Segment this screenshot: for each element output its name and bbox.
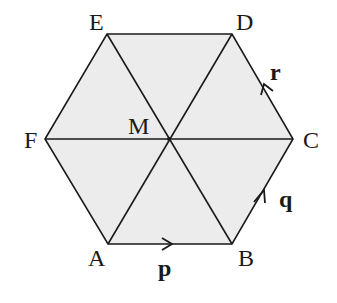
vertex-label-E: E — [89, 9, 104, 35]
vertex-label-D: D — [236, 9, 253, 35]
vertex-label-B: B — [238, 245, 254, 271]
vertex-label-F: F — [24, 127, 37, 153]
hexagon-diagram: E D F C M A B p q r — [0, 0, 337, 303]
vertex-label-C: C — [303, 127, 319, 153]
centre-point-M — [167, 137, 171, 141]
vertex-label-A: A — [88, 245, 106, 271]
vector-label-q: q — [279, 186, 293, 212]
vector-label-p: p — [158, 255, 171, 281]
vertex-label-M: M — [128, 113, 149, 139]
hexagon-svg: E D F C M A B p q r — [0, 0, 337, 303]
vector-label-r: r — [270, 59, 281, 85]
